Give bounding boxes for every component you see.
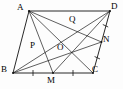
label-point-b: B [1,65,7,74]
label-point-o: O [57,43,64,52]
label-point-c: C [92,65,98,74]
dot-b [12,72,14,74]
segment-an [29,11,102,42]
segment-ab [13,11,29,73]
label-point-n: N [103,35,110,44]
label-point-p: P [30,41,35,50]
label-point-d: D [111,2,118,11]
label-point-a: A [17,3,24,12]
geometry-figure: A D B C M N O P Q [0,0,123,89]
label-point-m: M [47,76,55,85]
label-point-q: Q [69,15,76,24]
dot-a [28,10,30,12]
dot-m [52,72,54,74]
